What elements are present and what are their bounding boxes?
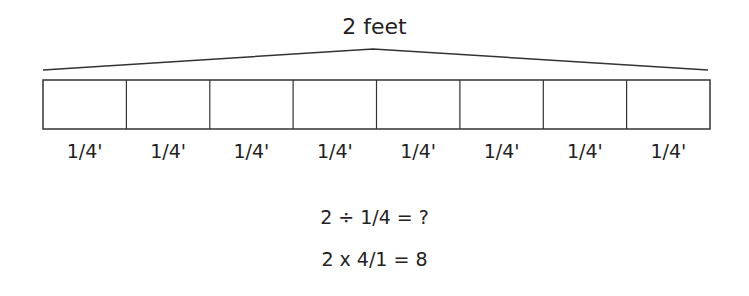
brace-line xyxy=(43,49,708,70)
equation-division: 2 ÷ 1/4 = ? xyxy=(0,206,749,228)
segment-label: 1/4' xyxy=(543,140,626,162)
segment-label: 1/4' xyxy=(293,140,376,162)
segment-label: 1/4' xyxy=(627,140,710,162)
segment-label: 1/4' xyxy=(43,140,126,162)
segment-label: 1/4' xyxy=(210,140,293,162)
segment-label: 1/4' xyxy=(460,140,543,162)
segment-label: 1/4' xyxy=(126,140,209,162)
segment-label: 1/4' xyxy=(377,140,460,162)
segment-labels: 1/4' 1/4' 1/4' 1/4' 1/4' 1/4' 1/4' 1/4' xyxy=(43,140,710,162)
equation-multiplication: 2 x 4/1 = 8 xyxy=(0,248,749,270)
